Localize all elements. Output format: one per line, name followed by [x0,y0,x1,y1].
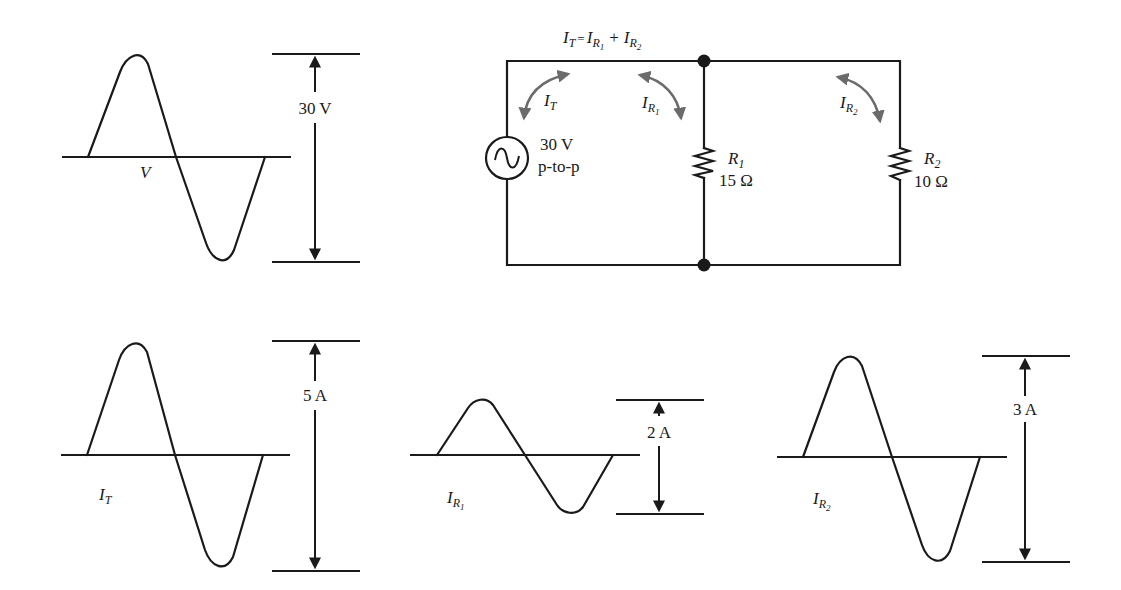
current-equation: IT=IR1+IR2 [562,28,642,52]
resistor-r1-value: 15 Ω [719,171,753,190]
current-label-ir1: IR1 [641,93,660,117]
waveform-label: IR1 [446,488,465,512]
parallel-circuit-diagram: 30 V V IT=IR1+IR2 30 V p-to-p R1 15 Ω R2… [0,0,1121,590]
amplitude-label: 2 A [647,423,672,442]
source-voltage-label: 30 V [540,135,574,154]
ac-source-icon [486,137,528,179]
sine-wave [437,400,613,513]
junction-node-top [698,55,711,68]
sine-wave [803,357,980,561]
resistor-r2-value: 10 Ω [914,172,948,191]
waveform-r1-current: 2 A IR1 [410,400,704,514]
waveform-label: V [140,163,153,182]
circuit: IT=IR1+IR2 30 V p-to-p R1 15 Ω R2 10 Ω I… [486,28,948,272]
waveform-label: IR2 [812,489,831,513]
waveform-r2-current: 3 A IR2 [777,356,1070,562]
waveform-label: IT [98,485,113,507]
waveform-voltage: 30 V V [62,54,360,262]
junction-node-bottom [698,259,711,272]
waveform-total-current: 5 A IT [61,341,360,571]
amplitude-label: 30 V [298,99,332,118]
resistor-r1-icon [695,148,713,178]
current-label-ir2: IR2 [839,93,858,117]
source-note-label: p-to-p [538,157,580,176]
current-label-it: IT [543,91,558,113]
resistor-r1-name: R1 [727,149,744,171]
amplitude-label: 5 A [303,386,328,405]
resistor-r2-name: R2 [923,149,940,171]
resistor-r2-icon [891,148,909,180]
amplitude-label: 3 A [1013,400,1038,419]
